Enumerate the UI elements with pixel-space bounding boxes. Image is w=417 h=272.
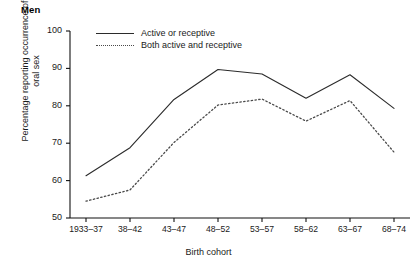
legend-label: Active or receptive (141, 28, 215, 38)
y-tick-label: 90 (36, 62, 62, 72)
legend-line-swatch-icon (96, 29, 134, 37)
legend-item: Active or receptive (96, 27, 242, 39)
series-line (86, 99, 394, 201)
y-tick-label: 60 (36, 175, 62, 185)
y-tick-label: 100 (36, 25, 62, 35)
series-line (86, 70, 394, 176)
plot-svg (70, 25, 410, 225)
legend-label: Both active and receptive (141, 40, 242, 50)
legend-line-swatch-icon (96, 41, 134, 49)
x-tick-label: 68–74 (367, 224, 417, 234)
x-axis-label: Birth cohort (0, 247, 417, 257)
y-tick-label: 70 (36, 137, 62, 147)
y-tick-label: 50 (36, 212, 62, 222)
y-tick-label: 80 (36, 100, 62, 110)
chart-legend: Active or receptiveBoth active and recep… (96, 27, 242, 51)
plot-area (70, 25, 410, 225)
legend-item: Both active and receptive (96, 39, 242, 51)
chart-figure: Men Percentage reporting occurrence of o… (0, 0, 417, 272)
